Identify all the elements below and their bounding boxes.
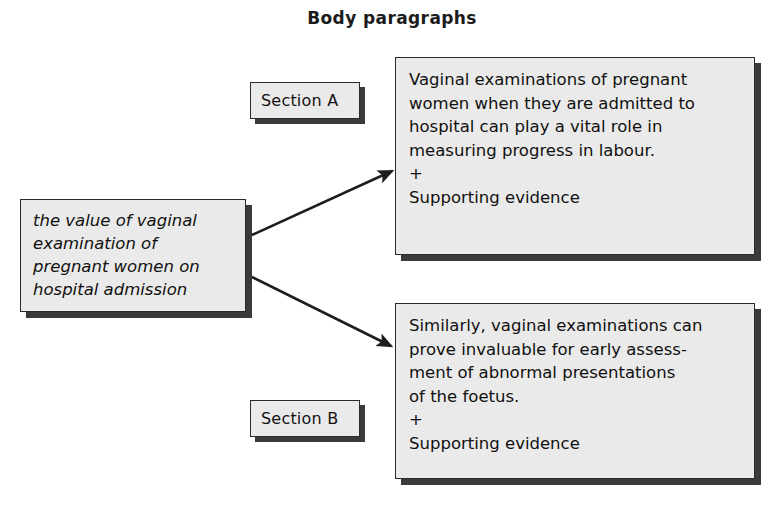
section-b-label-box: Section B (250, 400, 360, 437)
diagram-canvas: Body paragraphs the value of vaginal exa… (0, 0, 784, 513)
page-title: Body paragraphs (0, 8, 784, 28)
section-a-label-box: Section A (250, 82, 360, 119)
arrow-to-section-b (252, 277, 391, 346)
section-b-label-text: Section B (261, 409, 338, 428)
section-a-paragraph-text: Vaginal examinations of pregnant women w… (409, 68, 744, 209)
arrow-to-section-a (252, 171, 392, 235)
section-b-paragraph-box: Similarly, vaginal examinations can prov… (395, 303, 755, 479)
thesis-stem-text: the value of vaginal examination of preg… (33, 209, 235, 301)
section-b-paragraph-text: Similarly, vaginal examinations can prov… (409, 314, 744, 455)
section-a-paragraph-box: Vaginal examinations of pregnant women w… (395, 57, 755, 255)
thesis-stem-box: the value of vaginal examination of preg… (20, 199, 246, 312)
section-a-label-text: Section A (261, 91, 338, 110)
